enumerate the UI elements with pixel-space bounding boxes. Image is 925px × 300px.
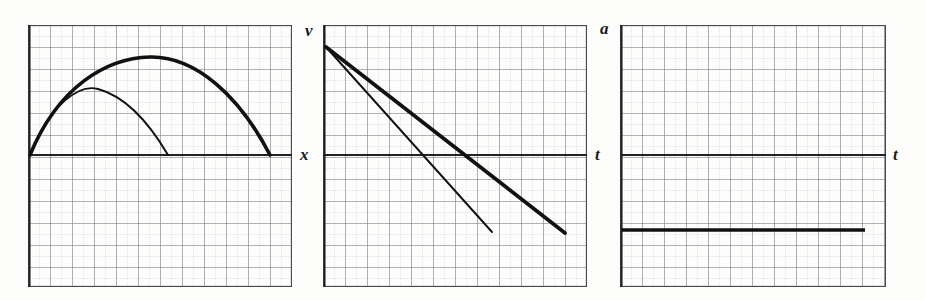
panel-acceleration-plot (620, 25, 886, 287)
panel-velocity (323, 25, 587, 287)
panel2-y-axis-label: v (305, 22, 313, 39)
panel-velocity-plot (323, 25, 587, 287)
panel-position-plot (28, 25, 292, 287)
panel-position (28, 25, 292, 287)
panel-acceleration (620, 25, 886, 287)
panel2-x-axis-label: t (595, 146, 600, 163)
panel3-x-axis-label: t (893, 146, 898, 163)
panel1-x-axis-label: x (300, 146, 309, 163)
panel3-y-axis-label: a (600, 20, 609, 37)
figure-canvas: x v t (0, 0, 925, 300)
